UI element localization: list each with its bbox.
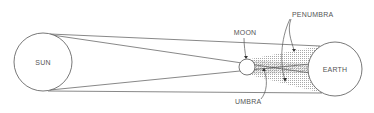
moon: MOON: [234, 29, 257, 75]
moon-circle: [239, 59, 255, 75]
eclipse-diagram: SUN MOON EARTH PENUMBRA UMBRA: [0, 0, 374, 113]
earth-label: EARTH: [323, 66, 348, 73]
sun: SUN: [14, 33, 72, 91]
penumbra-label: PENUMBRA: [292, 11, 333, 18]
sun-label: SUN: [35, 59, 50, 66]
earth: EARTH: [308, 42, 362, 96]
umbra-label: UMBRA: [235, 98, 261, 105]
moon-pointer-arrow: [244, 38, 246, 58]
penumbra-arrow-1: [289, 19, 294, 50]
moon-label: MOON: [234, 29, 257, 36]
